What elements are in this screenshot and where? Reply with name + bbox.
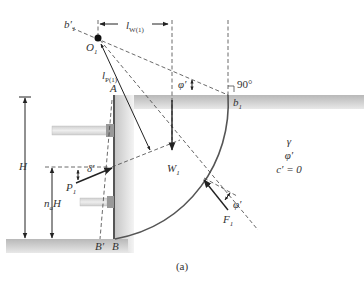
figure-caption: (a) <box>176 260 189 273</box>
label-soil-phi: φ′ <box>285 149 294 161</box>
label-b1-prime: b′1 <box>64 18 75 33</box>
label-A: A <box>109 82 117 94</box>
excavation-base <box>6 239 128 253</box>
upper-anchor-rod <box>52 126 107 135</box>
label-phi-F: φ′ <box>233 198 242 210</box>
label-W1: W1 <box>167 162 180 177</box>
label-H: H <box>18 160 28 172</box>
label-P1: P1 <box>65 181 76 196</box>
label-naH: naH <box>44 197 62 212</box>
label-delta: δ′ <box>87 162 95 174</box>
label-lW1: lW(1) <box>126 19 145 34</box>
right-angle-mark <box>228 86 234 92</box>
label-F1: F1 <box>222 213 233 228</box>
lower-anchor-plate <box>107 196 114 208</box>
retaining-wall-diagram: b′1 O1 lW(1) lP(1) A φ′ 90° b1 H naH δ′ … <box>0 0 364 287</box>
label-B: B <box>112 240 119 252</box>
label-soil-gamma: γ <box>287 135 292 147</box>
label-O1: O1 <box>86 41 97 56</box>
wall-backfill-shading <box>114 95 134 253</box>
label-phi-top: φ′ <box>178 78 187 90</box>
label-90-deg: 90° <box>237 78 252 90</box>
label-B-prime: B′ <box>95 240 105 252</box>
point-O1 <box>95 35 102 42</box>
phi-F-angle-arrow <box>225 193 230 200</box>
label-soil-c: c′ = 0 <box>276 163 302 175</box>
